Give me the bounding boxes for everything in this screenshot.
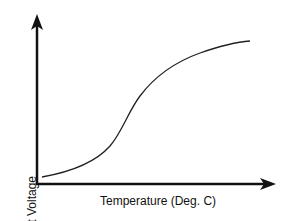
sigmoid-diagram: [0, 0, 296, 221]
data-curve: [42, 41, 250, 177]
x-axis-label: Temperature (Deg. C): [100, 194, 216, 208]
y-axis-label: Input Voltage: [25, 176, 39, 221]
